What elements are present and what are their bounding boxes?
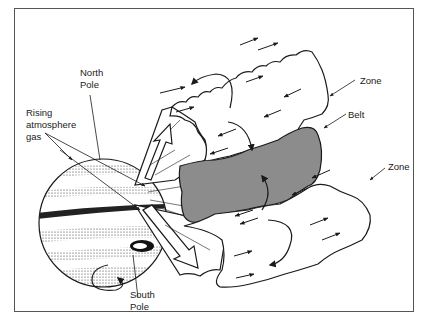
flow-arrow <box>160 87 185 93</box>
diagram-canvas: NorthPole Risingatmospheregas SouthPole … <box>0 0 423 318</box>
flow-arrow <box>240 38 258 45</box>
zone-bottom-label: Zone <box>388 161 410 172</box>
zone-top-label: Zone <box>360 75 382 86</box>
leader-north-pole <box>90 95 100 160</box>
flow-arrow <box>258 43 278 50</box>
leader-zone-top <box>330 80 355 96</box>
leader-zone-bottom <box>370 168 385 180</box>
belt-label: Belt <box>348 109 365 120</box>
south-pole-label: SouthPole <box>130 289 155 312</box>
band-6 <box>30 266 170 290</box>
north-pole-label: NorthPole <box>80 67 103 90</box>
leader-belt <box>324 114 346 128</box>
rising-gas-label: Risingatmospheregas <box>26 107 76 142</box>
